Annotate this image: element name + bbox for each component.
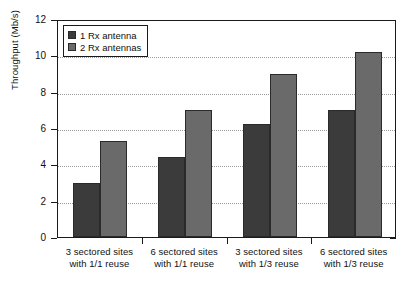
bar bbox=[328, 110, 355, 237]
x-axis-category-line: 3 sectored sites bbox=[227, 246, 312, 258]
legend-item: 1 Rx antenna bbox=[68, 29, 141, 41]
x-axis-separator bbox=[142, 238, 143, 244]
x-axis-category-label: 6 sectored siteswith 1/1 reuse bbox=[142, 246, 227, 269]
y-axis-tick-label: 12 bbox=[6, 15, 46, 25]
gridline bbox=[58, 57, 395, 58]
bar bbox=[185, 110, 212, 237]
bar bbox=[243, 124, 270, 237]
x-axis-category-line: 3 sectored sites bbox=[57, 246, 142, 258]
legend-label: 2 Rx antennas bbox=[80, 42, 141, 53]
y-axis-tick bbox=[51, 238, 57, 239]
y-axis-tick-label: 0 bbox=[6, 233, 46, 243]
x-axis-separator bbox=[311, 238, 312, 244]
y-axis-tick-right bbox=[390, 238, 396, 239]
x-axis-category-line: with 1/1 reuse bbox=[142, 258, 227, 270]
legend-item: 2 Rx antennas bbox=[68, 41, 141, 53]
x-axis-category-line: 6 sectored sites bbox=[142, 246, 227, 258]
bar bbox=[73, 183, 100, 238]
y-axis-tick-label: 6 bbox=[6, 124, 46, 134]
bar bbox=[270, 74, 297, 238]
legend-label: 1 Rx antenna bbox=[80, 30, 137, 41]
bar bbox=[355, 52, 382, 237]
y-axis-tick-label: 2 bbox=[6, 197, 46, 207]
legend-swatch-icon bbox=[68, 43, 76, 51]
bar-chart-figure: Throughput (Mb/s) 024681012 3 sectored s… bbox=[0, 0, 418, 283]
y-axis-tick-label: 10 bbox=[6, 51, 46, 61]
x-axis-category-line: with 1/1 reuse bbox=[57, 258, 142, 270]
y-axis-tick-label: 4 bbox=[6, 160, 46, 170]
y-axis-tick-label: 8 bbox=[6, 88, 46, 98]
x-axis-separator bbox=[227, 238, 228, 244]
bar bbox=[158, 157, 185, 237]
x-axis-category-line: with 1/3 reuse bbox=[227, 258, 312, 270]
x-axis-category-label: 3 sectored siteswith 1/1 reuse bbox=[57, 246, 142, 269]
x-axis-category-line: 6 sectored sites bbox=[311, 246, 396, 258]
gridline bbox=[58, 94, 395, 95]
x-axis-category-label: 6 sectored siteswith 1/3 reuse bbox=[311, 246, 396, 269]
legend-swatch-icon bbox=[68, 31, 76, 39]
x-axis-category-line: with 1/3 reuse bbox=[311, 258, 396, 270]
bar bbox=[100, 141, 127, 237]
legend: 1 Rx antenna 2 Rx antennas bbox=[63, 25, 148, 57]
x-axis-category-label: 3 sectored siteswith 1/3 reuse bbox=[227, 246, 312, 269]
